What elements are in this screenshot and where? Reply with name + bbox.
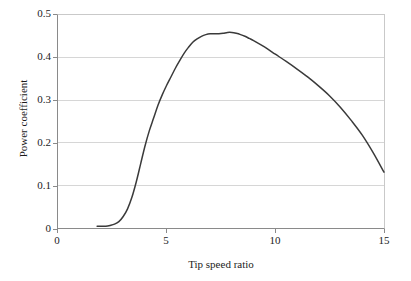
x-tick-label: 10 — [255, 234, 295, 246]
y-tick-label: 0 — [3, 223, 51, 234]
y-tick-label: 0.5 — [3, 8, 51, 19]
x-tick-mark — [275, 229, 276, 233]
y-tick-0: 0 — [0, 223, 51, 234]
plot-area — [57, 14, 385, 229]
x-tick-label: 5 — [146, 234, 186, 246]
y-axis-title: Power coefficient — [17, 49, 30, 189]
data-curve — [58, 15, 384, 228]
x-axis-title: Tip speed ratio — [57, 258, 385, 271]
x-tick-mark — [384, 229, 385, 233]
x-tick-mark — [57, 229, 58, 233]
chart-figure: 0.5 0.4 0.3 0.2 0.1 0 0 5 10 15 — [0, 0, 411, 281]
series-power-coefficient — [97, 32, 384, 226]
x-tick-label: 0 — [37, 234, 77, 246]
x-tick-mark — [166, 229, 167, 233]
y-tick-0.5: 0.5 — [0, 8, 51, 19]
x-tick-label: 15 — [364, 234, 404, 246]
